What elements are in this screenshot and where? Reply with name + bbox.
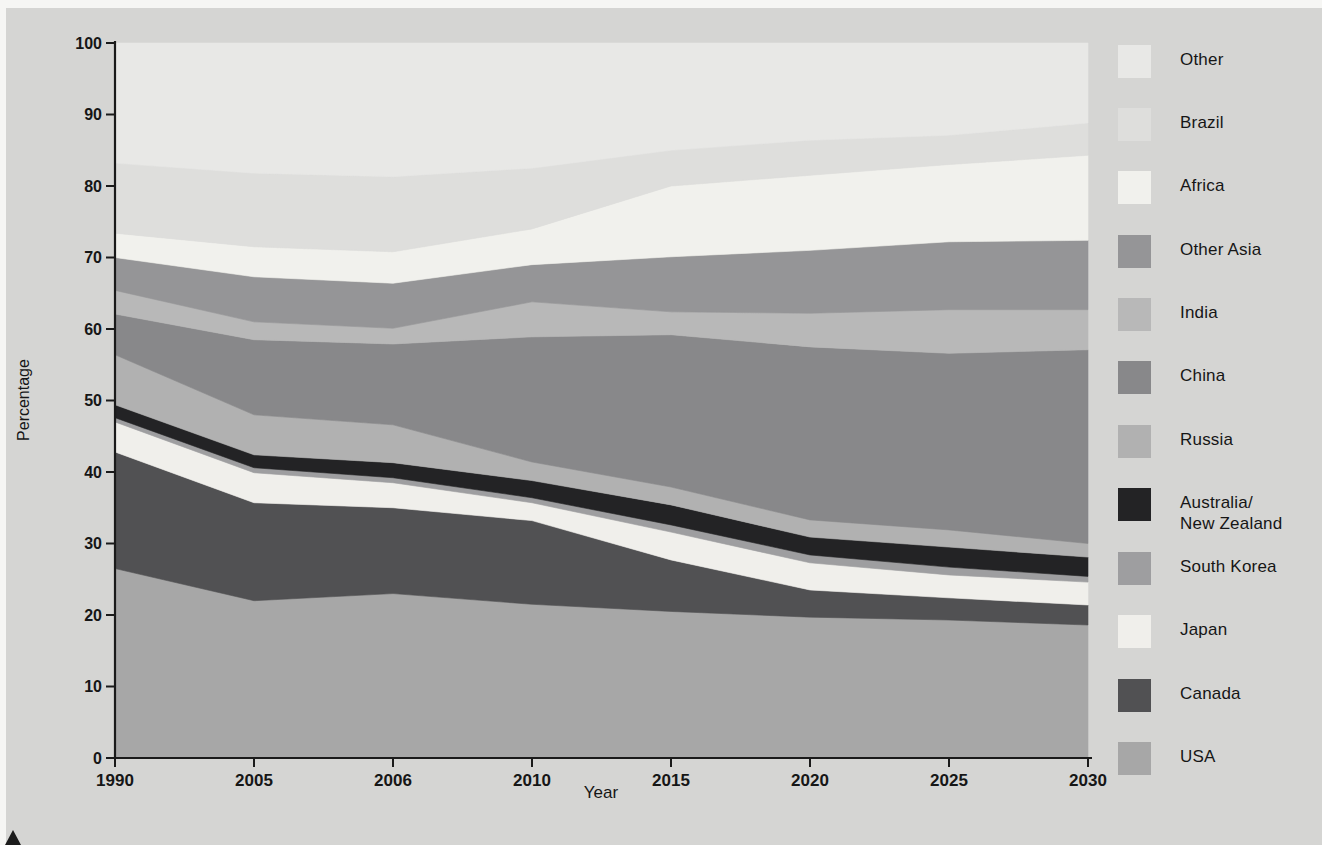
legend-swatch [1118, 361, 1151, 394]
y-tick-label: 10 [84, 678, 102, 695]
chart-areas [115, 43, 1088, 758]
legend-item-australia-new-zealand: Australia/ New Zealand [1118, 488, 1282, 534]
legend-item-other: Other [1118, 45, 1224, 78]
legend-label: Australia/ New Zealand [1180, 492, 1282, 534]
y-tick-label: 70 [84, 249, 102, 266]
y-tick-label: 20 [84, 607, 102, 624]
legend-label: Other Asia [1180, 239, 1261, 260]
x-axis-title: Year [584, 783, 619, 802]
legend-item-japan: Japan [1118, 615, 1227, 648]
legend-item-china: China [1118, 361, 1225, 394]
legend-swatch [1118, 235, 1151, 268]
x-tick-label: 2006 [374, 771, 412, 790]
x-tick-label: 2015 [652, 771, 690, 790]
y-tick-label: 100 [75, 35, 102, 52]
y-tick-label: 90 [84, 106, 102, 123]
legend-label: Canada [1180, 683, 1241, 704]
y-tick-label: 60 [84, 321, 102, 338]
y-axis-title: Percentage [15, 359, 32, 441]
legend-label: USA [1180, 746, 1216, 767]
legend-swatch [1118, 679, 1151, 712]
chart-legend: OtherBrazilAfricaOther AsiaIndiaChinaRus… [1118, 0, 1318, 845]
legend-item-south-korea: South Korea [1118, 552, 1277, 585]
x-tick-label: 2025 [930, 771, 968, 790]
legend-swatch [1118, 552, 1151, 585]
legend-label: China [1180, 365, 1225, 386]
legend-swatch [1118, 298, 1151, 331]
legend-item-africa: Africa [1118, 171, 1225, 204]
legend-item-brazil: Brazil [1118, 108, 1224, 141]
legend-label: Russia [1180, 429, 1233, 450]
y-tick-label: 50 [84, 392, 102, 409]
legend-item-other-asia: Other Asia [1118, 235, 1261, 268]
legend-item-usa: USA [1118, 742, 1216, 775]
caption-mark [5, 830, 21, 845]
legend-swatch [1118, 171, 1151, 204]
x-tick-label: 2020 [791, 771, 829, 790]
legend-swatch [1118, 425, 1151, 458]
legend-label: Africa [1180, 175, 1225, 196]
legend-label: Other [1180, 49, 1224, 70]
x-tick-label: 1990 [96, 771, 134, 790]
legend-label: India [1180, 302, 1218, 323]
y-tick-label: 40 [84, 464, 102, 481]
legend-swatch [1118, 108, 1151, 141]
legend-swatch [1118, 615, 1151, 648]
x-tick-label: 2005 [235, 771, 273, 790]
x-tick-label: 2010 [513, 771, 551, 790]
legend-item-india: India [1118, 298, 1218, 331]
y-tick-label: 30 [84, 535, 102, 552]
legend-item-russia: Russia [1118, 425, 1233, 458]
page: 0102030405060708090100199020052006201020… [0, 0, 1322, 845]
y-tick-label: 80 [84, 178, 102, 195]
legend-label: Japan [1180, 619, 1227, 640]
legend-label: South Korea [1180, 556, 1277, 577]
legend-swatch [1118, 742, 1151, 775]
y-tick-label: 0 [93, 750, 102, 767]
legend-swatch [1118, 45, 1151, 78]
legend-item-canada: Canada [1118, 679, 1241, 712]
legend-label: Brazil [1180, 112, 1224, 133]
x-tick-label: 2030 [1069, 771, 1107, 790]
legend-swatch [1118, 488, 1151, 521]
